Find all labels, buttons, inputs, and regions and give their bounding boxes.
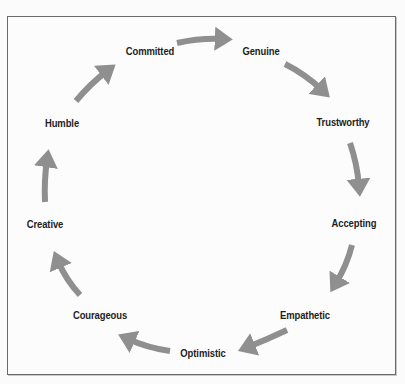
arrow-humble-to-committed: [76, 71, 107, 101]
arrow-creative-to-humble: [45, 160, 47, 202]
node-trustworthy: Trustworthy: [316, 116, 369, 128]
arrow-courageous-to-creative: [58, 261, 80, 295]
cycle-arrows: [0, 0, 405, 384]
arrow-trustworthy-to-accepting: [350, 143, 359, 186]
node-genuine: Genuine: [242, 45, 279, 57]
node-accepting: Accepting: [332, 217, 377, 229]
node-humble: Humble: [45, 117, 79, 129]
arrow-empathetic-to-optimistic: [248, 330, 287, 347]
arrow-accepting-to-empathetic: [336, 245, 352, 283]
arrow-committed-to-genuine: [177, 39, 222, 43]
arrow-optimistic-to-courageous: [128, 339, 170, 351]
node-empathetic: Empathetic: [280, 309, 330, 321]
node-committed: Committed: [126, 45, 175, 57]
node-optimistic: Optimistic: [180, 347, 225, 359]
arrow-genuine-to-trustworthy: [285, 64, 322, 90]
node-creative: Creative: [27, 218, 64, 230]
node-courageous: Courageous: [73, 309, 127, 321]
